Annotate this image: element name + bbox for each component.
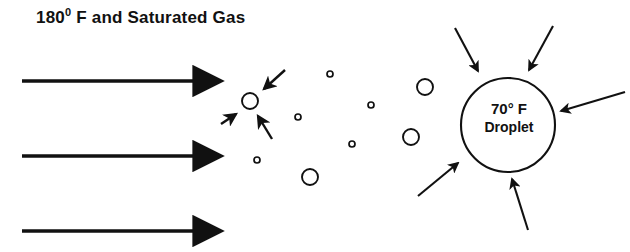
droplet-heat-transfer-diagram: 1800 F and Saturated Gas 70° F Droplet	[0, 0, 630, 252]
droplet-particle-medium	[242, 93, 258, 109]
small-droplet-arrow-1	[264, 70, 285, 89]
small-droplet-arrow-3	[258, 116, 272, 139]
droplet-arrow-bottom	[512, 179, 528, 230]
suspended-droplet-field	[242, 71, 433, 185]
droplet-particle-medium	[417, 79, 433, 95]
gas-flow-arrows	[22, 81, 196, 231]
title-temperature-value: 180	[36, 8, 65, 27]
droplet-arrow-top-right	[529, 26, 553, 70]
droplet-particle-small	[295, 114, 301, 120]
droplet-particle-small	[349, 141, 355, 147]
droplet-label: 70° F Droplet	[462, 100, 556, 136]
droplet-particle-small	[368, 102, 374, 108]
droplet-arrow-right	[561, 92, 625, 111]
title-suffix: F and Saturated Gas	[71, 8, 245, 27]
small-droplet-arrow-2	[221, 114, 236, 124]
droplet-arrow-bottom-left	[418, 163, 458, 196]
diagram-title: 1800 F and Saturated Gas	[36, 6, 245, 28]
small-droplet-heat-arrows	[221, 70, 285, 139]
droplet-particle-small	[254, 157, 260, 163]
droplet-particle-small	[327, 71, 333, 77]
droplet-arrow-top-left	[455, 28, 478, 71]
droplet-particle-medium	[403, 129, 419, 145]
droplet-particle-medium	[302, 169, 318, 185]
droplet-temperature-label: 70° F	[491, 100, 527, 117]
droplet-name-label: Droplet	[462, 119, 556, 137]
